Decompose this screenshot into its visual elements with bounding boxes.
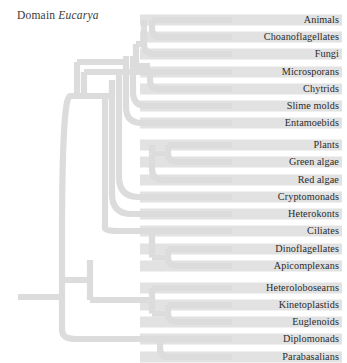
tip-label: Animals <box>304 14 339 25</box>
tip-label: Heterolobosearns <box>266 282 339 293</box>
tip-label: Plants <box>313 139 339 150</box>
tip-label: Fungi <box>315 48 339 59</box>
tip-label: Cryptomonads <box>278 191 339 202</box>
tip-label: Diplomonads <box>283 333 339 344</box>
tip-label: Chytrids <box>303 83 339 94</box>
tip-label: Dinoflagellates <box>275 243 339 254</box>
tip-label: Green algae <box>289 156 339 167</box>
tip-labels-layer: AnimalsChoanoflagellatesFungiMicrosporan… <box>0 0 347 363</box>
tip-label: Ciliates <box>307 225 339 236</box>
tip-label: Parabasalians <box>282 351 339 362</box>
phylogenetic-tree-figure: Domain Eucarya AnimalsChoanoflagellatesF… <box>0 0 347 363</box>
tip-label: Slime molds <box>287 100 339 111</box>
tip-label: Euglenoids <box>292 316 339 327</box>
tip-label: Apicomplexans <box>274 260 339 271</box>
tip-label: Microsporans <box>282 66 339 77</box>
tip-label: Entamoebids <box>285 117 339 128</box>
tip-label: Choanoflagellates <box>264 31 339 42</box>
tip-label: Kinetoplastids <box>279 299 339 310</box>
tip-label: Red algae <box>298 174 339 185</box>
tip-label: Heterokonts <box>288 208 339 219</box>
